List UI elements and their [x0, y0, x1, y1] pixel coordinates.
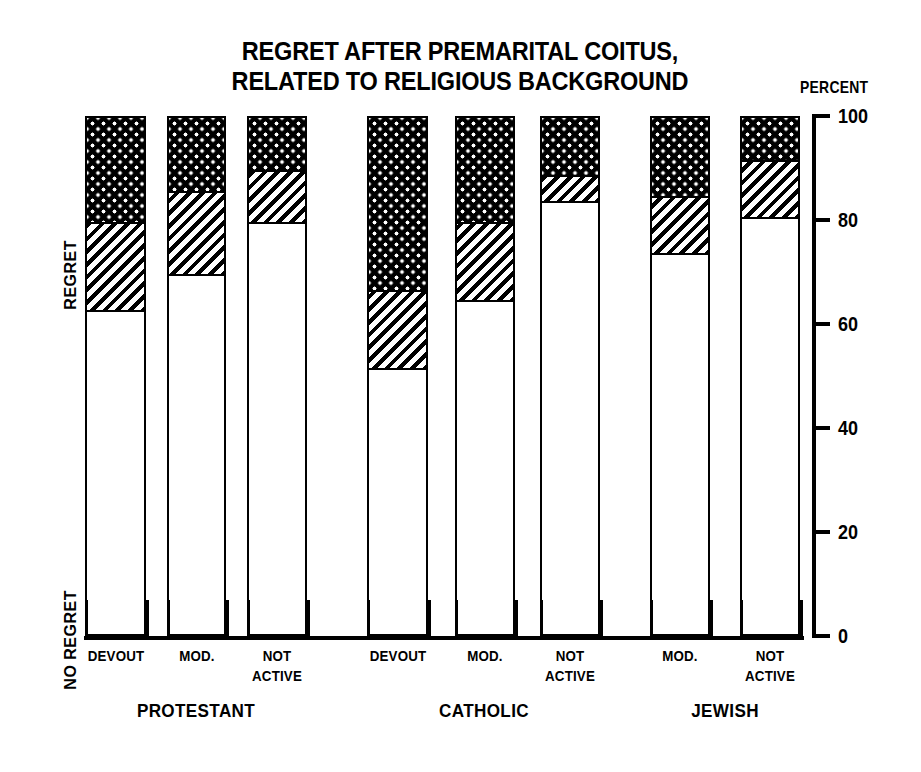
bar-segment-regret [742, 118, 798, 160]
chart-title-line-1: REGRET AFTER PREMARITAL COITUS, [140, 36, 779, 66]
stacked-bar [650, 116, 710, 636]
bar-segment-some-regret [369, 290, 426, 370]
bar-segment-regret [652, 118, 708, 196]
bar-segment-no-regret [457, 300, 513, 636]
y-axis-tick [812, 322, 830, 326]
x-axis-tick [428, 600, 431, 636]
x-axis-tick [600, 600, 603, 636]
y-axis-tick [812, 218, 830, 222]
x-axis-tick [710, 600, 713, 636]
y-axis-tick [812, 114, 830, 118]
side-label-no-regret: NO REGRET [62, 590, 80, 690]
bar-segment-no-regret [169, 274, 224, 636]
x-axis-tick [226, 600, 229, 636]
x-axis-category-label: NOTACTIVE [710, 646, 830, 686]
x-axis-tick [146, 600, 149, 636]
x-axis-tick [740, 600, 743, 636]
x-axis-tick [247, 600, 250, 636]
x-axis-tick [800, 600, 803, 636]
bar-segment-some-regret [169, 191, 224, 276]
bar-segment-regret [87, 118, 144, 222]
bar-segment-some-regret [249, 170, 305, 224]
x-axis-category-label: NOTACTIVE [510, 646, 630, 686]
y-axis-line [812, 114, 818, 638]
x-axis-tick [650, 600, 653, 636]
x-axis-tick [307, 600, 310, 636]
bar-segment-no-regret [249, 222, 305, 636]
bar-segment-some-regret [652, 196, 708, 255]
x-axis-category-label: NOTACTIVE [217, 646, 337, 686]
x-axis-tick [85, 600, 88, 636]
side-label-regret: REGRET [62, 240, 80, 310]
y-axis-tick-label: 60 [838, 313, 858, 336]
bar-segment-some-regret [742, 160, 798, 219]
percent-axis-caption: PERCENT [800, 78, 868, 98]
y-axis-tick-label: 80 [838, 209, 858, 232]
bar-segment-no-regret [87, 310, 144, 636]
bar-segment-regret [169, 118, 224, 191]
y-axis-tick-label: 0 [838, 625, 848, 648]
x-axis-baseline [84, 636, 804, 640]
bar-segment-no-regret [652, 253, 708, 636]
bar-segment-some-regret [457, 222, 513, 302]
y-axis-tick-label: 100 [838, 105, 868, 128]
x-axis-tick [367, 600, 370, 636]
bar-segment-no-regret [742, 217, 798, 636]
x-axis-tick [167, 600, 170, 636]
stacked-bar [167, 116, 226, 636]
x-axis-tick [540, 600, 543, 636]
y-axis-tick [812, 634, 830, 638]
bar-segment-regret [369, 118, 426, 290]
x-axis-tick [455, 600, 458, 636]
bar-segment-regret [457, 118, 513, 222]
bar-segment-some-regret [542, 175, 598, 203]
y-axis-tick-label: 40 [838, 417, 858, 440]
chart-title-line-2: RELATED TO RELIGIOUS BACKGROUND [140, 66, 779, 96]
y-axis-tick-label: 20 [838, 521, 858, 544]
stacked-bar [85, 116, 146, 636]
x-axis-group-label: JEWISH [626, 700, 824, 722]
plot-area [84, 116, 802, 636]
x-axis-tick [515, 600, 518, 636]
bar-segment-some-regret [87, 222, 144, 312]
stacked-bar [247, 116, 307, 636]
y-axis-tick [812, 530, 830, 534]
bar-segment-regret [542, 118, 598, 175]
y-axis-tick [812, 426, 830, 430]
bar-segment-no-regret [542, 201, 598, 636]
chart-title: REGRET AFTER PREMARITAL COITUS, RELATED … [140, 36, 779, 96]
stacked-bar [367, 116, 428, 636]
x-axis-group-label: PROTESTANT [97, 700, 295, 722]
bar-segment-regret [249, 118, 305, 170]
bar-segment-no-regret [369, 368, 426, 636]
stacked-bar [740, 116, 800, 636]
stacked-bar [540, 116, 600, 636]
stacked-bar [455, 116, 515, 636]
chart-canvas: REGRET AFTER PREMARITAL COITUS, RELATED … [0, 0, 921, 772]
x-axis-group-label: CATHOLIC [385, 700, 583, 722]
